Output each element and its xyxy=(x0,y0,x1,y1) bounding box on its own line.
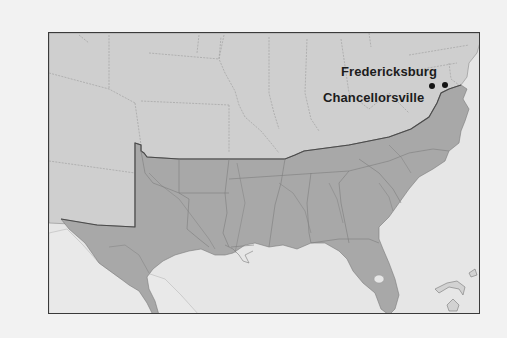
place-label-fredericksburg: Fredericksburg xyxy=(341,65,437,78)
dot-icon xyxy=(442,82,448,88)
lake-okeechobee xyxy=(374,275,384,283)
dot-icon xyxy=(429,83,435,89)
island xyxy=(435,281,465,295)
place-label-chancellorsville: Chancellorsville xyxy=(323,91,424,104)
island xyxy=(469,269,477,277)
island xyxy=(447,299,459,311)
